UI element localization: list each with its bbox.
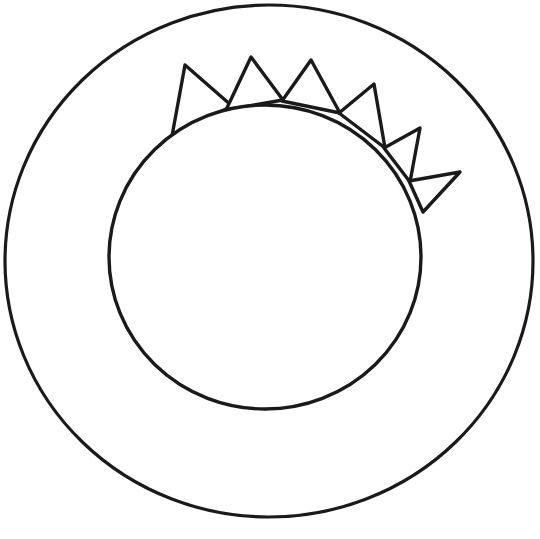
sun-line-drawing bbox=[0, 0, 540, 539]
ray-2 bbox=[226, 57, 283, 110]
ray-6 bbox=[409, 172, 460, 212]
ray-3 bbox=[282, 60, 340, 113]
drawing-canvas bbox=[0, 0, 540, 539]
